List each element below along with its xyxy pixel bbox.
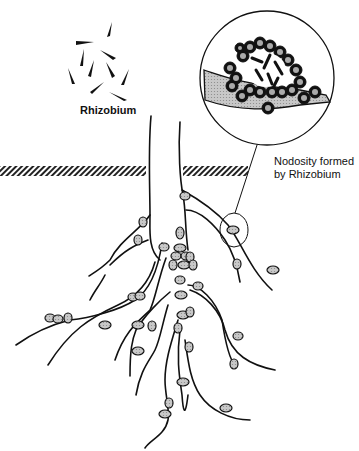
soil-line [0, 166, 248, 176]
root-nodule-diagram [0, 0, 359, 451]
rhizobium-label: Rhizobium [80, 104, 136, 116]
root-system [16, 116, 275, 448]
nodosity-label: Nodosity formed by Rhizobium [274, 155, 354, 181]
nodosity-label-line2: by Rhizobium [274, 168, 354, 181]
rhizobium-bacteria-icon [68, 22, 129, 101]
magnified-nodule-inset [200, 11, 334, 145]
root-nodules [45, 192, 279, 418]
nodosity-label-line1: Nodosity formed [274, 155, 354, 168]
